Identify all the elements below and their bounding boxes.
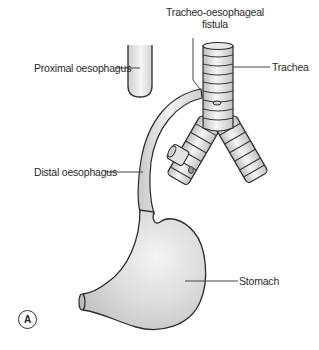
stomach-label: Stomach xyxy=(239,275,279,287)
stomach-shape xyxy=(79,210,206,329)
proximal-oesophagus-pouch xyxy=(128,45,152,97)
trachea-label: Trachea xyxy=(272,61,309,73)
proximal-oesophagus-label: Proximal oesophagus xyxy=(34,62,131,74)
panel-letter-badge: A xyxy=(18,310,37,329)
distal-oesophagus-label: Distal oesophagus xyxy=(34,166,117,178)
fistula-label-line1: Tracheo-oesophageal xyxy=(160,6,270,18)
fistula-label-line2: fistula xyxy=(160,18,270,30)
trachea-shape xyxy=(165,43,268,186)
fistula-label: Tracheo-oesophageal fistula xyxy=(160,6,270,30)
